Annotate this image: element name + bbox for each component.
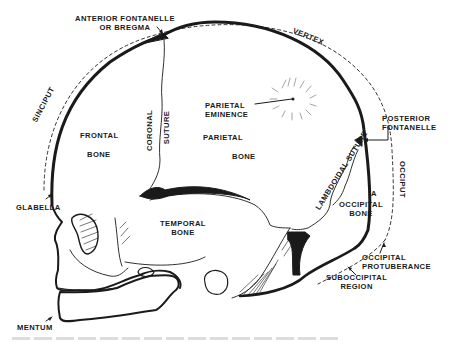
parietal-eminence-leader: [255, 99, 292, 104]
label-parietal-eminence-line2: EMINENCE: [205, 110, 248, 119]
label-posterior-fontanelle: POSTERIOR FONTANELLE: [382, 114, 436, 132]
skull-diagram: ANTERIOR FONTANELLE OR BREGMA VERTEX SIN…: [0, 0, 450, 345]
orbit-outline: [72, 214, 98, 254]
face-profile: [52, 205, 181, 291]
label-glabella: GLABELLA: [16, 203, 61, 212]
label-point-a: A: [371, 189, 377, 198]
label-parietal-bone-line2: BONE: [232, 152, 256, 161]
label-occipital-protuberance-line1: OCCIPITAL: [362, 253, 431, 262]
figure-caption-illegible: [12, 337, 342, 340]
label-occipital-protuberance-line2: PROTUBERANCE: [362, 262, 431, 271]
label-suboccipital-region-line1: SUBOCCIPITAL: [326, 273, 387, 282]
mastoid-process: [205, 270, 228, 294]
label-suboccipital-region-line2: REGION: [326, 282, 387, 291]
label-occipital-bone-line1: OCCIPITAL: [339, 200, 383, 209]
label-anterior-fontanelle: ANTERIOR FONTANELLE OR BREGMA: [75, 14, 175, 32]
label-temporal-bone-line2: BONE: [160, 228, 206, 237]
label-temporal-bone: TEMPORAL BONE: [160, 219, 206, 237]
label-anterior-fontanelle-line1: ANTERIOR FONTANELLE: [75, 14, 175, 23]
label-mentum: MENTUM: [17, 323, 53, 332]
label-coronal-suture-line2: SUTURE: [162, 111, 171, 145]
label-parietal-eminence: PARIETAL EMINENCE: [205, 101, 248, 119]
skull-drawing: [0, 0, 450, 345]
label-occipital-protuberance: OCCIPITAL PROTUBERANCE: [362, 253, 431, 271]
label-occipital-bone-line2: BONE: [339, 209, 383, 218]
label-posterior-fontanelle-line2: FONTANELLE: [382, 123, 436, 132]
label-occiput: OCCIPUT: [398, 161, 407, 198]
label-occipital-bone: OCCIPITAL BONE: [339, 200, 383, 218]
label-frontal-bone-line2: BONE: [87, 150, 111, 159]
label-parietal-bone-line1: PARIETAL: [203, 133, 243, 142]
label-frontal-bone-line1: FRONTAL: [80, 131, 119, 140]
occipital-dark-mark: [288, 232, 310, 275]
label-parietal-eminence-line1: PARIETAL: [205, 101, 248, 110]
label-coronal-suture-line1: CORONAL: [145, 110, 154, 151]
label-posterior-fontanelle-line1: POSTERIOR: [382, 114, 436, 123]
label-anterior-fontanelle-line2: OR BREGMA: [75, 23, 175, 32]
label-suboccipital-region: SUBOCCIPITAL REGION: [326, 273, 387, 291]
label-temporal-bone-line1: TEMPORAL: [160, 219, 206, 228]
